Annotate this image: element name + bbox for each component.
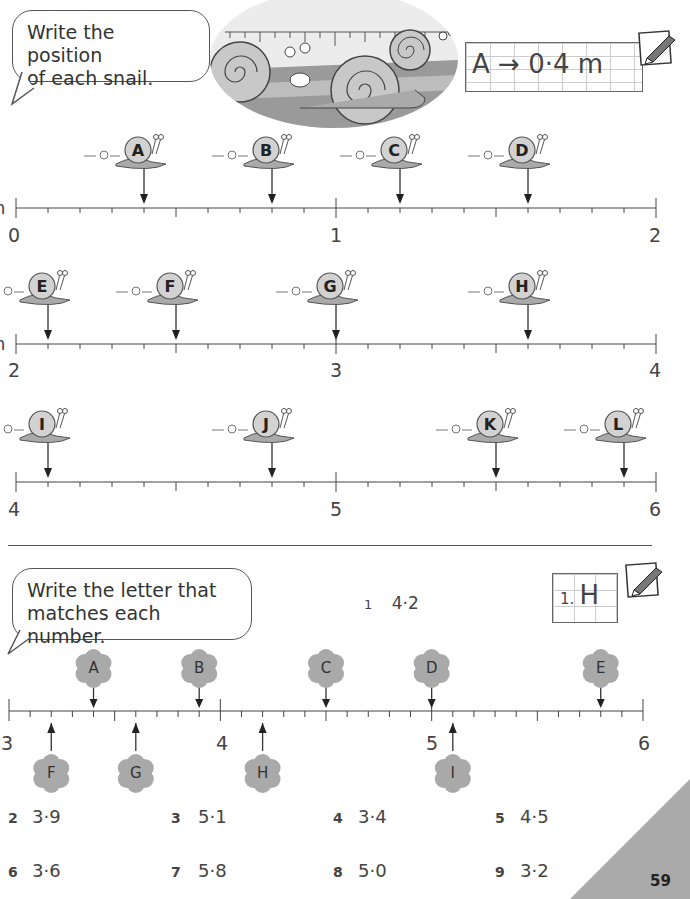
snail-letter: J xyxy=(262,415,269,434)
tick-label-4: 4 xyxy=(8,498,20,520)
cloud-letter: I xyxy=(451,764,455,782)
question-number: 8 xyxy=(333,864,343,880)
cloud-A: A xyxy=(76,649,112,688)
cloud-E: E xyxy=(583,649,619,688)
tick-label-1: 1 xyxy=(330,224,342,246)
snail-letter: E xyxy=(37,277,48,296)
snail-letter: G xyxy=(323,277,336,296)
snail-letter: F xyxy=(165,277,176,296)
snail-H: H xyxy=(468,271,550,341)
tick-label-5: 5 xyxy=(426,732,438,754)
snail-letter: H xyxy=(515,277,528,296)
answer-prompt: 5·1 xyxy=(198,806,227,827)
snail-F: F xyxy=(116,271,198,341)
tick-label-4: 4 xyxy=(649,359,661,381)
cloud-B: B xyxy=(181,649,217,688)
example-number: 1. xyxy=(560,590,574,608)
cloud-F: F xyxy=(33,754,69,793)
cloud-H: H xyxy=(245,754,281,793)
question-number: 5 xyxy=(495,810,505,826)
snail-L: L xyxy=(564,409,646,479)
tick-label-6: 6 xyxy=(638,732,650,754)
tick-label-2: 2 xyxy=(8,359,20,381)
cloud-letter: F xyxy=(47,764,56,782)
tick-label-3: 3 xyxy=(1,732,13,754)
cloud-letter: H xyxy=(257,764,268,782)
snail-letter: C xyxy=(388,141,400,160)
answer-prompt: 5·0 xyxy=(358,860,387,881)
snail-number-lines: ABCDEFGHIJKL xyxy=(0,0,690,540)
snail-K: K xyxy=(436,409,518,479)
cloud-D: D xyxy=(414,649,450,688)
snail-J: J xyxy=(212,409,294,479)
tick-label-5: 5 xyxy=(330,498,342,520)
cloud-G: G xyxy=(118,754,154,793)
answer-prompt: 3·9 xyxy=(32,806,61,827)
section-divider xyxy=(8,545,652,546)
page-number: 59 xyxy=(650,872,671,890)
snail-letter: A xyxy=(132,141,145,160)
snail-letter: B xyxy=(260,141,272,160)
pencil-note-icon xyxy=(624,560,666,602)
cloud-letter: B xyxy=(194,659,204,677)
question-number: 2 xyxy=(8,810,18,826)
snail-G: G xyxy=(276,271,358,341)
answer-prompt: 4·5 xyxy=(520,806,549,827)
question-value: 4·2 xyxy=(392,593,419,613)
cloud-letter: E xyxy=(596,659,605,677)
snail-letter: K xyxy=(484,415,497,434)
question-number: 9 xyxy=(495,864,505,880)
cloud-I: I xyxy=(435,754,471,793)
question-number: 6 xyxy=(8,864,18,880)
question-number: 1 xyxy=(364,597,372,612)
answer-prompt: 3·2 xyxy=(520,860,549,881)
example-letter: H xyxy=(579,580,599,610)
answer-prompt: 3·6 xyxy=(32,860,61,881)
question-number: 7 xyxy=(171,864,181,880)
instruction-bubble-2: Write the letter that matches each numbe… xyxy=(12,568,252,640)
cloud-letter: G xyxy=(130,764,142,782)
answer-prompt: 5·8 xyxy=(198,860,227,881)
cloud-letter: A xyxy=(88,659,99,677)
instruction-line-1: Write the letter that xyxy=(27,579,237,602)
snail-letter: D xyxy=(515,141,528,160)
tick-label-4: 4 xyxy=(216,732,228,754)
tick-label-6: 6 xyxy=(649,498,661,520)
cloud-letter: C xyxy=(321,659,331,677)
snail-C: C xyxy=(340,135,422,205)
snail-D: D xyxy=(468,135,550,205)
snail-B: B xyxy=(212,135,294,205)
snail-letter: I xyxy=(39,415,45,434)
question-1: 1 4·2 xyxy=(364,593,419,613)
page-corner xyxy=(570,779,690,899)
tick-label-2: 2 xyxy=(649,224,661,246)
answer-prompt: 3·4 xyxy=(358,806,387,827)
example-answer: 1. H xyxy=(560,580,599,610)
snail-E: E xyxy=(0,271,70,341)
snail-A: A xyxy=(84,135,166,205)
question-number: 4 xyxy=(333,810,343,826)
cloud-letter: D xyxy=(426,659,438,677)
tick-label-3: 3 xyxy=(330,359,342,381)
cloud-C: C xyxy=(308,649,344,688)
snail-I: I xyxy=(0,409,70,479)
question-number: 3 xyxy=(171,810,181,826)
snail-letter: L xyxy=(613,415,623,434)
tick-label-0: 0 xyxy=(8,224,20,246)
cloud-number-line: ABCDEFGHI xyxy=(0,640,690,800)
